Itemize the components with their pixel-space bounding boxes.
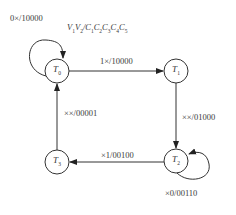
edge-label-t0-self: 0×/10000 xyxy=(10,14,43,23)
edge-label-t1-t2: ××/01000 xyxy=(182,113,215,122)
edge-label-t2-self: ×0/00110 xyxy=(165,189,197,198)
io-header-label: V1V2/C1C2C3C4C5 xyxy=(67,23,127,34)
state-label-t0: T0 xyxy=(53,65,61,76)
edge-label-t0-t1: 1×/10000 xyxy=(100,57,133,66)
state-label-t3: T3 xyxy=(53,156,61,167)
state-label-t2: T2 xyxy=(172,155,180,166)
edge-label-t3-t0: ××/00001 xyxy=(64,109,97,118)
edge-label-t2-t3: ×1/00100 xyxy=(101,151,134,160)
state-label-t1: T1 xyxy=(172,65,180,76)
